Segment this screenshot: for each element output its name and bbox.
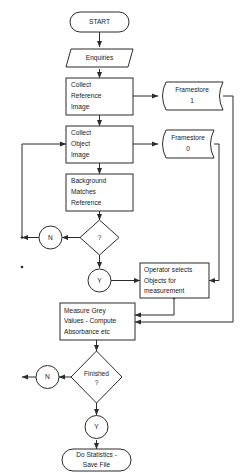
node-background-matches-reference[interactable]: Background Matches Reference <box>66 174 133 211</box>
measure-grey-line3: Absorbance etc <box>64 328 111 335</box>
do-statistics-line1: Do Statistics - <box>76 451 117 458</box>
framestore1-line2: 1 <box>190 97 194 104</box>
enquiries-label: Enquiries <box>86 54 114 62</box>
background-matches-line3: Reference <box>71 199 102 206</box>
collect-object-line2: Object <box>71 140 90 148</box>
node-decision-finished[interactable]: Finished ? <box>71 351 122 403</box>
collect-object-line1: Collect <box>71 129 91 136</box>
decision-finished-line2: ? <box>95 379 99 386</box>
collect-reference-line1: Collect <box>71 81 91 88</box>
background-matches-line2: Matches <box>71 188 97 195</box>
junction-dot-lower <box>21 266 24 269</box>
node-connector-finished-no[interactable]: N <box>36 366 59 389</box>
junction-dot-upper <box>21 236 24 239</box>
node-collect-object-image[interactable]: Collect Object Image <box>66 126 133 163</box>
framestore0-line2: 0 <box>186 145 190 152</box>
do-statistics-line2: Save File <box>83 461 111 468</box>
edge-operator-to-measure <box>135 298 174 315</box>
operator-selects-line2: Objects for <box>144 277 177 285</box>
measure-grey-line2: Values - Compute <box>64 317 117 325</box>
node-connector-match-no[interactable]: N <box>39 226 62 249</box>
node-operator-selects[interactable]: Operator selects Objects for measurement <box>140 263 209 298</box>
framestore1-line1: Framestore <box>175 86 209 93</box>
node-enquiries[interactable]: Enquiries <box>66 49 133 67</box>
node-decision-background-match[interactable]: ? <box>80 220 119 255</box>
operator-selects-line1: Operator selects <box>144 266 193 274</box>
node-do-statistics[interactable]: Do Statistics - Save File <box>62 449 131 471</box>
edge-left-rail-to-collect-object <box>22 144 66 238</box>
node-start[interactable]: START <box>70 12 129 32</box>
framestore0-line1: Framestore <box>171 134 205 141</box>
collect-object-line3: Image <box>71 151 90 159</box>
node-collect-reference-image[interactable]: Collect Reference Image <box>66 78 133 115</box>
background-matches-line1: Background <box>71 177 107 185</box>
decision-finished-shape <box>71 351 122 403</box>
match-no-label: N <box>48 234 53 241</box>
node-framestore-0[interactable]: Framestore 0 <box>163 130 215 158</box>
decision-finished-line1: Finished <box>84 370 109 377</box>
node-framestore-1[interactable]: Framestore 1 <box>163 82 224 110</box>
collect-reference-line3: Image <box>71 103 90 111</box>
node-connector-match-yes[interactable]: Y <box>88 269 111 292</box>
operator-selects-line3: measurement <box>144 287 184 294</box>
node-measure-grey-values[interactable]: Measure Grey Values - Compute Absorbance… <box>60 303 135 340</box>
finished-no-label: N <box>45 373 50 380</box>
node-connector-finished-yes[interactable]: Y <box>85 416 108 439</box>
collect-reference-line2: Reference <box>71 92 102 99</box>
finished-yes-label: Y <box>94 423 99 430</box>
edge-framestore0-to-operator <box>209 144 219 281</box>
start-label: START <box>89 18 110 25</box>
match-yes-label: Y <box>97 277 102 284</box>
flowchart-canvas: START Enquiries Collect Reference Image … <box>0 0 243 473</box>
measure-grey-line1: Measure Grey <box>64 307 106 315</box>
decision-match-label: ? <box>98 234 102 241</box>
